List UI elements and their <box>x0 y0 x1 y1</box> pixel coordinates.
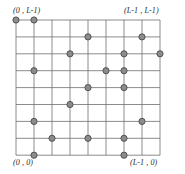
lattice-site-dot <box>139 118 145 124</box>
lattice-site-dot <box>49 135 55 141</box>
lattice-site-dot <box>121 51 127 57</box>
lattice-figure: (0 , L-1) (L-1 , L-1) (0 , 0) (L-1 , 0) <box>0 0 185 174</box>
lattice-site-dot <box>85 34 91 40</box>
lattice-site-dot <box>85 85 91 91</box>
lattice-site-dot <box>103 68 109 74</box>
lattice-site-dot <box>13 17 19 23</box>
corner-label-bottom-left: (0 , 0) <box>13 159 33 167</box>
lattice-site-dot <box>157 51 163 57</box>
lattice-site-dot <box>67 101 73 107</box>
corner-label-top-left: (0 , L-1) <box>13 7 40 15</box>
lattice-site-dot <box>121 68 127 74</box>
lattice-site-dot <box>31 17 37 23</box>
corner-label-top-right: (L-1 , L-1) <box>124 7 159 15</box>
lattice-site-dot <box>139 34 145 40</box>
lattice-site-dot <box>31 118 37 124</box>
lattice-site-dot <box>31 68 37 74</box>
lattice-site-dot <box>121 135 127 141</box>
corner-label-bottom-right: (L-1 , 0) <box>130 159 157 167</box>
lattice-site-dot <box>121 152 127 158</box>
lattice-canvas <box>0 0 185 174</box>
lattice-site-dot <box>85 135 91 141</box>
lattice-site-dot <box>67 51 73 57</box>
lattice-site-dot <box>121 85 127 91</box>
